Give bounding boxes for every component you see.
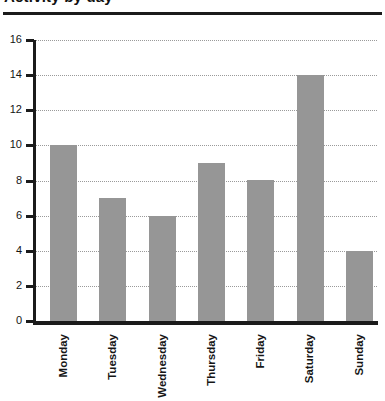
- y-axis-tick-label: 4: [0, 245, 22, 256]
- bar[interactable]: [149, 216, 176, 321]
- page-title: Activity by day: [4, 0, 113, 5]
- x-axis-label-slot: Sunday: [335, 330, 384, 401]
- bar-chart-figure: Activity by day 0246810121416 MondayTues…: [0, 0, 385, 401]
- x-axis-label-slot: Thursday: [187, 330, 236, 401]
- x-axis-label-slot: Saturday: [285, 330, 334, 401]
- bar[interactable]: [297, 75, 324, 321]
- plot-area: 0246810121416: [0, 18, 385, 328]
- x-axis-label-slot: Monday: [39, 330, 88, 401]
- bar[interactable]: [50, 145, 77, 321]
- x-axis-tick-label: Sunday: [354, 334, 366, 376]
- y-axis-tick-label: 12: [0, 104, 22, 115]
- y-axis-tick-label: 8: [0, 175, 22, 186]
- x-axis-label-slot: Wednesday: [138, 330, 187, 401]
- bars-group: [33, 40, 378, 321]
- y-axis-tick-label: 6: [0, 210, 22, 221]
- x-axis-tick-label: Thursday: [206, 334, 218, 386]
- x-axis-labels: MondayTuesdayWednesdayThursdayFridaySatu…: [33, 330, 378, 401]
- x-axis-tick-label: Tuesday: [107, 334, 119, 380]
- y-axis-tick-label: 14: [0, 69, 22, 80]
- y-axis-tick-label: 10: [0, 139, 22, 150]
- x-axis-tick-label: Friday: [255, 334, 267, 369]
- y-axis-tick-label: 16: [0, 34, 22, 45]
- x-axis-label-slot: Friday: [236, 330, 285, 401]
- y-axis-tick-label: 0: [0, 315, 22, 326]
- x-axis-tick-label: Wednesday: [157, 334, 169, 398]
- x-axis-tick-label: Saturday: [304, 334, 316, 383]
- bar[interactable]: [346, 251, 373, 321]
- bar[interactable]: [198, 163, 225, 321]
- chart-title-clip: Activity by day: [0, 0, 385, 9]
- x-axis-label-slot: Tuesday: [88, 330, 137, 401]
- bar[interactable]: [247, 180, 274, 321]
- y-axis-tick-label: 2: [0, 280, 22, 291]
- x-axis-tick-label: Monday: [58, 334, 70, 377]
- title-divider: [3, 12, 382, 15]
- x-axis-line: [33, 321, 378, 325]
- bar[interactable]: [99, 198, 126, 321]
